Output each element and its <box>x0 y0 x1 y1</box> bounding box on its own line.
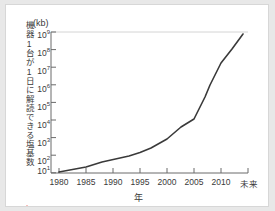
x-tick-label-2010: 2010 <box>212 177 231 187</box>
x-axis-title: 年 <box>6 191 269 204</box>
x-tick-label-1995: 1995 <box>131 177 150 187</box>
figure-card: 機器1台が1日に解読できる塩基数 (kb) 109 108 107 106 10… <box>5 4 269 207</box>
x-tick-label-2000: 2000 <box>158 177 177 187</box>
y-tick-marks <box>51 32 56 173</box>
data-series-line <box>59 34 243 172</box>
publisher-logo-icon <box>18 201 44 207</box>
log-line-chart: 機器1台が1日に解読できる塩基数 (kb) 109 108 107 106 10… <box>6 5 269 207</box>
x-tick-label-future: 未来 <box>240 177 258 189</box>
x-tick-marks <box>59 168 248 173</box>
x-tick-label-1980: 1980 <box>50 177 69 187</box>
x-tick-label-2005: 2005 <box>185 177 204 187</box>
x-tick-label-1985: 1985 <box>77 177 96 187</box>
x-tick-label-1990: 1990 <box>104 177 123 187</box>
